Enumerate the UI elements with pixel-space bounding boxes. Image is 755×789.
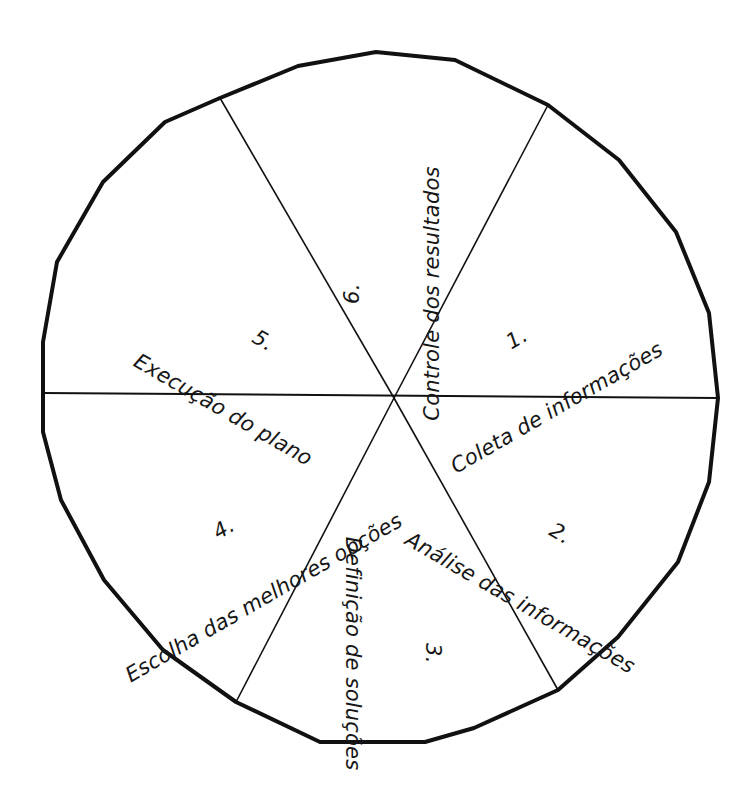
divider-lower-left (236, 398, 394, 702)
wheel-shape (0, 0, 755, 789)
divider-horizontal (43, 393, 718, 398)
divider-lower-right (394, 398, 558, 690)
process-wheel-diagram: 1. Coleta de informações 2. Análise das … (0, 0, 755, 789)
divider-upper-right (394, 105, 548, 398)
divider-upper-left (220, 98, 394, 398)
